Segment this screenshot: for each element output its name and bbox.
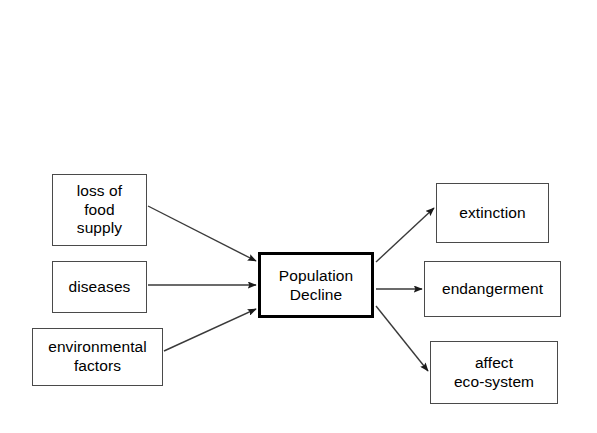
node-affect-eco-system[interactable]: affect eco-system (430, 341, 558, 404)
arrow-population-decline-to-affect-eco-system (376, 306, 428, 371)
node-label: affect eco-system (454, 354, 534, 392)
diagram-canvas: loss of food supply diseases environment… (0, 0, 597, 433)
node-diseases[interactable]: diseases (52, 261, 147, 313)
node-environmental-factors[interactable]: environmental factors (32, 328, 163, 386)
node-label: environmental factors (48, 338, 147, 376)
arrow-loss-of-food-supply-to-population-decline (148, 206, 256, 261)
node-label: Population Decline (279, 266, 353, 305)
node-label: endangerment (442, 280, 543, 299)
node-endangerment[interactable]: endangerment (424, 261, 561, 317)
node-label: extinction (459, 204, 525, 223)
node-extinction[interactable]: extinction (436, 183, 549, 243)
node-population-decline[interactable]: Population Decline (258, 252, 374, 318)
arrow-population-decline-to-extinction (376, 208, 434, 262)
node-label: diseases (69, 278, 131, 297)
arrow-environmental-factors-to-population-decline (164, 309, 256, 351)
node-label: loss of food supply (77, 182, 123, 239)
node-loss-of-food-supply[interactable]: loss of food supply (52, 174, 147, 246)
